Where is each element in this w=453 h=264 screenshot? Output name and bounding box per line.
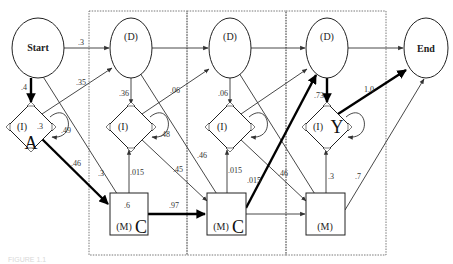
insert-inner-value: .3: [37, 122, 43, 131]
edge-label-i1-m2: .45: [173, 165, 183, 174]
edge-label-m1-i1: .015: [130, 168, 144, 177]
edge-label-i1-self: .48: [160, 130, 170, 139]
start-node: Start: [12, 18, 64, 78]
match-emission: C: [232, 217, 244, 237]
match-label: (M): [317, 221, 333, 233]
match-node-2: (M) C: [207, 193, 246, 237]
edge-label-start-i0: .4: [21, 83, 27, 92]
edge-label-m1-m2: .97: [169, 201, 179, 210]
delete-node-2: (D): [209, 18, 251, 78]
edge-label-d1-m2: .46: [197, 151, 207, 160]
figure-caption: FIGURE 1.1: [8, 256, 46, 263]
edge-label-m2-i2: .015: [228, 166, 242, 175]
hmm-diagram: Start End (D) (D) (D) (I) .3 A (I): [0, 0, 453, 264]
end-label: End: [417, 43, 435, 54]
insert-label: (I): [118, 121, 128, 133]
edge-label-i0-d1: .35: [76, 78, 86, 87]
delete-node-3: (D): [306, 18, 348, 78]
edge-label-m3-i3: .3: [328, 172, 334, 181]
end-node: End: [404, 18, 448, 78]
edge-label-m3-end: .7: [355, 172, 361, 181]
edge-label-m2-d3: .015: [247, 176, 261, 185]
match-inner-value: .6: [124, 201, 130, 210]
edge-label-start-d1: .3: [78, 38, 84, 47]
edge-label-d2-i2: .06: [218, 89, 228, 98]
delete-node-1: (D): [110, 18, 152, 78]
edge-label-start-m1: .3: [98, 169, 104, 178]
match-node-3: (M): [306, 193, 345, 235]
edge-label-i0-m1: .46: [71, 159, 81, 168]
edge-label-d1-i1: .36: [119, 89, 129, 98]
match-label: (M): [213, 221, 229, 233]
match-emission: C: [135, 217, 147, 237]
edge-label-i3-end: 1.0: [364, 85, 374, 94]
insert-label: (I): [217, 121, 227, 133]
match-node-1: .6 (M) C: [110, 193, 148, 237]
insert-label: (I): [313, 121, 323, 133]
delete-label: (D): [124, 31, 138, 43]
edge-label-i1-d2: .06: [170, 86, 180, 95]
edge-label-d3-i3: .73: [314, 91, 324, 100]
insert-emission: A: [25, 133, 38, 153]
start-label: Start: [27, 42, 49, 53]
match-label: (M): [116, 221, 132, 233]
insert-emission: Y: [331, 117, 344, 137]
edge-label-d2-m3: .46: [278, 169, 288, 178]
insert-label: (I): [17, 121, 27, 133]
delete-label: (D): [223, 31, 237, 43]
delete-label: (D): [320, 31, 334, 43]
edge-label-i0-self: .49: [61, 126, 71, 135]
